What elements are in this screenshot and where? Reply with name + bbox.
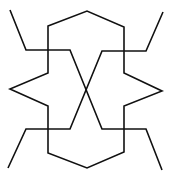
line-diagram — [0, 0, 175, 178]
arm-top-right-to-bottom-left — [8, 12, 163, 168]
